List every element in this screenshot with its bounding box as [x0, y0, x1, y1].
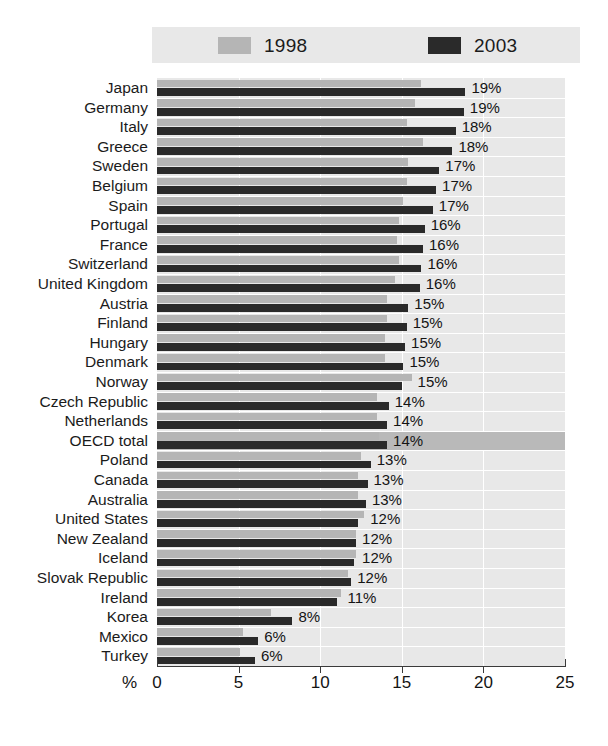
- bar-1998: [157, 236, 397, 244]
- bar-1998: [157, 432, 379, 440]
- bar-value-label: 11%: [347, 588, 376, 608]
- x-tick-label: 20: [463, 673, 503, 693]
- row-separator: [157, 313, 565, 314]
- category-label: Belgium: [0, 176, 148, 196]
- row-separator: [157, 156, 565, 157]
- plot-area: 19%19%18%18%17%17%17%16%16%16%16%15%15%1…: [157, 78, 565, 666]
- category-label: Austria: [0, 294, 148, 314]
- chart-row: 8%: [157, 607, 565, 627]
- bar-value-label: 14%: [393, 431, 423, 451]
- bar-value-label: 13%: [374, 470, 404, 490]
- bar-1998: [157, 452, 361, 460]
- row-separator: [157, 431, 565, 432]
- row-separator: [157, 509, 565, 510]
- bar-1998: [157, 99, 415, 107]
- bar-1998: [157, 472, 358, 480]
- bar-value-label: 8%: [298, 607, 320, 627]
- bar-1998: [157, 628, 243, 636]
- bar-value-label: 14%: [395, 392, 425, 412]
- bar-2003: [157, 343, 405, 351]
- chart-row: 15%: [157, 313, 565, 333]
- chart-row: 13%: [157, 490, 565, 510]
- bar-2003: [157, 578, 351, 586]
- chart-row: 19%: [157, 78, 565, 98]
- x-tick-label: 0: [137, 673, 177, 693]
- chart-row: 15%: [157, 333, 565, 353]
- x-tick-label: 5: [219, 673, 259, 693]
- row-separator: [157, 294, 565, 295]
- category-label: Norway: [0, 372, 148, 392]
- chart-row: 11%: [157, 588, 565, 608]
- bar-value-label: 6%: [261, 646, 283, 666]
- x-tick-label: 15: [382, 673, 422, 693]
- row-separator: [157, 333, 565, 334]
- row-separator: [157, 137, 565, 138]
- chart-row: 12%: [157, 568, 565, 588]
- bar-2003: [157, 657, 255, 665]
- bar-value-label: 13%: [372, 490, 402, 510]
- chart-row: 18%: [157, 137, 565, 157]
- x-axis-unit-label: %: [107, 673, 137, 693]
- bar-2003: [157, 363, 403, 371]
- bar-value-label: 17%: [439, 196, 469, 216]
- bar-1998: [157, 217, 399, 225]
- bar-value-label: 15%: [418, 372, 448, 392]
- bar-1998: [157, 491, 358, 499]
- bar-1998: [157, 550, 356, 558]
- category-label: Canada: [0, 470, 148, 490]
- chart-row: 14%: [157, 431, 565, 451]
- bar-1998: [157, 256, 399, 264]
- bar-2003: [157, 402, 389, 410]
- bar-value-label: 18%: [462, 117, 492, 137]
- row-separator: [157, 411, 565, 412]
- bar-1998: [157, 315, 387, 323]
- category-label: United Kingdom: [0, 274, 148, 294]
- bar-1998: [157, 648, 240, 656]
- row-separator: [157, 98, 565, 99]
- chart-row: 17%: [157, 156, 565, 176]
- bar-2003: [157, 304, 408, 312]
- bar-2003: [157, 441, 387, 449]
- category-label: Netherlands: [0, 411, 148, 431]
- category-label: Portugal: [0, 215, 148, 235]
- category-label: New Zealand: [0, 529, 148, 549]
- chart-row: 16%: [157, 274, 565, 294]
- bar-1998: [157, 295, 387, 303]
- bar-1998: [157, 158, 408, 166]
- bar-2003: [157, 421, 387, 429]
- bar-value-label: 16%: [427, 254, 457, 274]
- x-tick: [239, 666, 240, 673]
- row-separator: [157, 274, 565, 275]
- bar-1998: [157, 374, 412, 382]
- bar-value-label: 16%: [426, 274, 456, 294]
- bar-2003: [157, 617, 292, 625]
- chart-row: 12%: [157, 509, 565, 529]
- bar-1998: [157, 80, 421, 88]
- legend-item-1998: 1998: [218, 27, 307, 63]
- bar-2003: [157, 480, 368, 488]
- row-separator: [157, 372, 565, 373]
- bar-1998: [157, 589, 341, 597]
- bar-1998: [157, 178, 407, 186]
- category-label: Iceland: [0, 548, 148, 568]
- legend-label-1998: 1998: [264, 36, 307, 55]
- gridline: [565, 78, 566, 666]
- bar-1998: [157, 197, 403, 205]
- chart-row: 12%: [157, 548, 565, 568]
- bar-2003: [157, 284, 420, 292]
- category-label: Denmark: [0, 352, 148, 372]
- bar-2003: [157, 88, 465, 96]
- x-tick-label: 25: [545, 673, 585, 693]
- category-label: Poland: [0, 450, 148, 470]
- category-label: Germany: [0, 98, 148, 118]
- bar-2003: [157, 167, 439, 175]
- bar-value-label: 14%: [393, 411, 423, 431]
- category-label: Mexico: [0, 627, 148, 647]
- category-label: Korea: [0, 607, 148, 627]
- bar-value-label: 19%: [471, 78, 501, 98]
- x-tick: [483, 666, 484, 673]
- bar-2003: [157, 519, 358, 527]
- bar-1998: [157, 393, 377, 401]
- chart-row: 15%: [157, 294, 565, 314]
- bar-2003: [157, 206, 433, 214]
